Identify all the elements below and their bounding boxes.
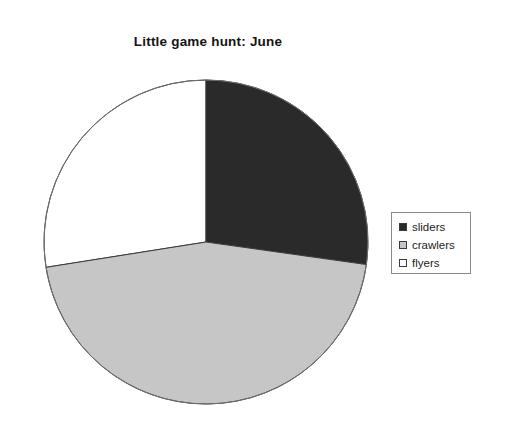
pie-slice-sliders[interactable] — [206, 80, 368, 265]
legend-label-sliders: sliders — [412, 221, 445, 233]
legend-item-crawlers[interactable]: crawlers — [399, 236, 470, 253]
pie-plot-area — [43, 79, 369, 405]
pie-slice-flyers[interactable] — [44, 80, 206, 267]
legend-item-sliders[interactable]: sliders — [399, 218, 470, 235]
page-title: Little game hunt: June — [0, 34, 416, 49]
legend-swatch-icon-sliders — [399, 223, 407, 231]
pie-svg — [43, 79, 369, 405]
legend-swatch-icon-crawlers — [399, 241, 407, 249]
pie-chart-figure: Little game hunt: June sliders crawlers … — [0, 0, 526, 446]
pie-slice-crawlers[interactable] — [46, 242, 366, 404]
legend-item-flyers[interactable]: flyers — [399, 254, 470, 271]
legend-swatch-icon-flyers — [399, 259, 407, 267]
chart-legend: sliders crawlers flyers — [391, 212, 471, 274]
legend-label-crawlers: crawlers — [412, 239, 455, 251]
legend-label-flyers: flyers — [412, 257, 439, 269]
